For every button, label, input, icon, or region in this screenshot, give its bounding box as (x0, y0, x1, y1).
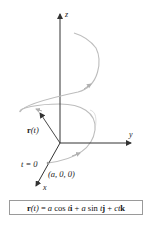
y-axis-label: y (129, 131, 133, 139)
position-vector (40, 113, 60, 143)
formula-cos: cos (52, 203, 68, 213)
helix-equation: r(t) = a cos ti + a sin tj + ctk (27, 203, 125, 213)
formula-arg: (t) (31, 203, 39, 213)
formula-eq: = (39, 203, 48, 213)
vector-label-arg: (t) (31, 125, 39, 135)
start-point-label: (a, 0, 0) (48, 170, 75, 179)
helix-arrow-back (36, 109, 42, 111)
helix-arrow-upper (84, 84, 91, 89)
start-point (47, 162, 50, 165)
helix-equation-box: r(t) = a cos ti + a sin tj + ctk (9, 200, 143, 215)
helix-diagram (0, 0, 152, 226)
x-axis-label: x (43, 184, 47, 192)
formula-sin: sin (86, 203, 100, 213)
start-time-label: t = 0 (21, 160, 38, 169)
helix-curve-upper (20, 33, 99, 112)
x-axis (36, 143, 60, 186)
formula-plus2: + (105, 203, 114, 213)
helix-curve-behind (90, 110, 96, 130)
vector-label: r(t) (27, 126, 39, 135)
z-axis-label: z (65, 11, 68, 19)
formula-k: k (120, 203, 125, 213)
